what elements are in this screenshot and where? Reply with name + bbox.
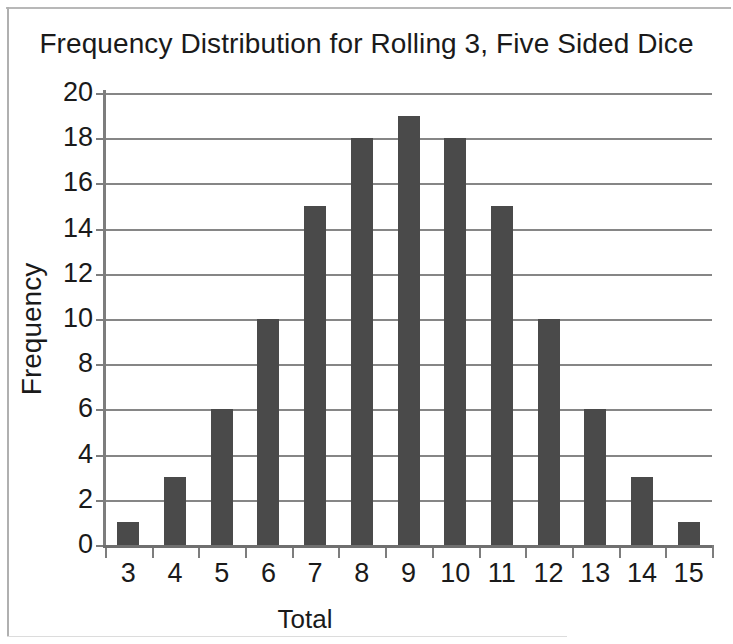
y-axis-tick-label: 18 (33, 124, 93, 151)
page-border-top (6, 7, 731, 9)
x-axis-title: Total (105, 604, 505, 635)
bar (538, 319, 560, 545)
y-axis-tick-label: 4 (33, 441, 93, 468)
bar (631, 477, 653, 545)
y-axis-tick-label: 16 (33, 169, 93, 196)
bar (211, 409, 233, 545)
x-axis-line (103, 545, 712, 548)
bar (398, 116, 420, 545)
bar (678, 522, 700, 545)
y-axis-tick-label: 12 (33, 260, 93, 287)
y-axis-tick-label: 8 (33, 350, 93, 377)
y-axis-tick-label: 10 (33, 305, 93, 332)
y-axis-tick-label: 14 (33, 215, 93, 242)
y-axis-tick-label: 20 (33, 79, 93, 106)
y-axis-tick-label: 0 (33, 531, 93, 558)
bar (584, 409, 606, 545)
chart-title: Frequency Distribution for Rolling 3, Fi… (0, 28, 733, 60)
bar (304, 206, 326, 545)
bar (257, 319, 279, 545)
bar (117, 522, 139, 545)
plot-area (105, 93, 712, 545)
bar (164, 477, 186, 545)
bar (444, 138, 466, 545)
frequency-distribution-chart: Frequency Distribution for Rolling 3, Fi… (0, 0, 733, 644)
x-axis-tick-label: 15 (659, 560, 719, 587)
x-axis-tick (712, 545, 714, 558)
page-border-left (7, 7, 9, 637)
bar (351, 138, 373, 545)
page-border-bottom (7, 636, 567, 637)
bar (491, 206, 513, 545)
y-axis-tick-label: 6 (33, 395, 93, 422)
y-axis-line (103, 90, 106, 548)
y-axis-tick-label: 2 (33, 486, 93, 513)
gridline (105, 93, 712, 95)
